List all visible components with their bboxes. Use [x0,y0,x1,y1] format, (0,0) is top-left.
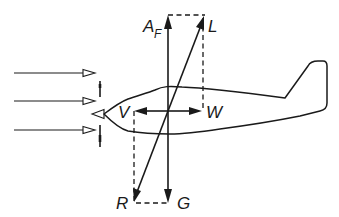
label-lift: L [208,17,217,36]
airflow-arrow [14,127,95,134]
airflow-arrow [14,98,95,105]
label-propulsion: V [118,103,131,122]
lift-arrow [168,16,204,111]
label-thrust-subscript: F [154,27,162,41]
propeller-icon [92,81,104,147]
thrust-arrow [164,15,172,111]
label-thrust: A [142,17,154,36]
label-resultant: R [116,194,128,213]
propulsion-arrow [134,107,168,115]
airflow-arrow [14,70,95,77]
airflow-arrows [14,70,95,134]
force-diagram: A F L V W R G [0,0,339,217]
resultant-arrow [133,111,168,202]
weight-arrow [164,111,172,203]
aircraft-fuselage [104,61,327,134]
drag-arrow [168,107,202,115]
label-drag: W [206,103,224,122]
label-weight: G [177,194,190,213]
